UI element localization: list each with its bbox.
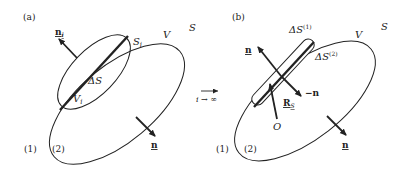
- panel-a-tag: (a): [23, 12, 35, 22]
- region-2-label-b: (2): [244, 144, 257, 154]
- panel-b-tag: (b): [232, 12, 245, 22]
- limit-label: i → ∞: [196, 95, 217, 104]
- sub-surface-label: Si: [133, 36, 142, 49]
- surface-label-a: S: [189, 22, 196, 33]
- origin-label: O: [273, 121, 281, 132]
- normal-i-label: ni: [55, 27, 65, 38]
- normal-label-b: n: [245, 45, 252, 55]
- region-1-label-b: (1): [216, 144, 229, 154]
- neg-normal-label: −n: [305, 88, 320, 98]
- surface-s-ellipse: [30, 22, 204, 179]
- surface-label-b: S: [381, 21, 388, 32]
- region-2-label-a: (2): [52, 144, 65, 154]
- position-vector-label: RS: [283, 98, 295, 109]
- figure: (a) S V Si ΔS Vi ni n (1) (2) i → ∞: [0, 0, 406, 179]
- delta-s2-label: ΔS(2): [314, 50, 338, 62]
- outer-normal-label-a: n: [151, 140, 158, 150]
- volume-label-a: V: [163, 29, 172, 40]
- outer-normal-label-b: n: [342, 140, 349, 150]
- panel-b: (b) S V ΔS(1) ΔS(2) n −n RS O n (1) (2): [215, 12, 394, 179]
- outer-normal-arrow: [136, 117, 155, 136]
- delta-s-label-a: ΔS: [87, 75, 102, 86]
- delta-s-segment: [60, 36, 128, 110]
- limit-transition: i → ∞: [196, 91, 218, 104]
- neg-normal-arrow: [281, 76, 301, 96]
- normal-arrow-b: [258, 47, 281, 76]
- normal-i-arrow: [59, 39, 77, 58]
- delta-s1-label: ΔS(1): [288, 23, 312, 35]
- volume-label-b: V: [355, 29, 364, 40]
- panel-a: (a) S V Si ΔS Vi ni n (1) (2): [23, 12, 204, 179]
- region-1-label-a: (1): [24, 144, 37, 154]
- sub-volume-label: Vi: [73, 93, 82, 106]
